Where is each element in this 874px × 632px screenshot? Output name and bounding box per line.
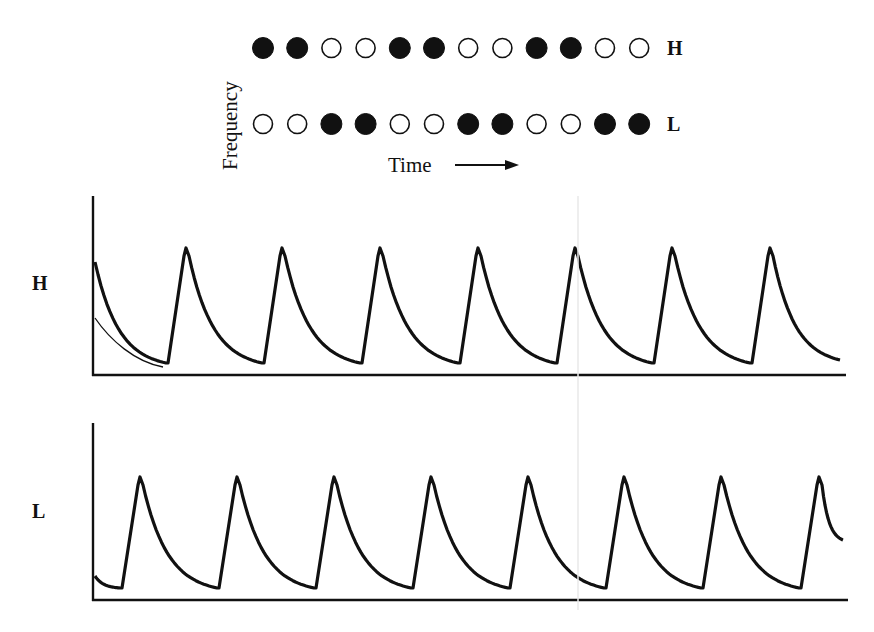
plot-high-curve <box>95 248 840 363</box>
response-plots <box>0 0 874 632</box>
plot-high-axes <box>92 196 846 376</box>
plot-low-curve <box>95 477 843 588</box>
plot-low-axes <box>92 423 848 601</box>
plot-label-low: L <box>32 500 45 523</box>
